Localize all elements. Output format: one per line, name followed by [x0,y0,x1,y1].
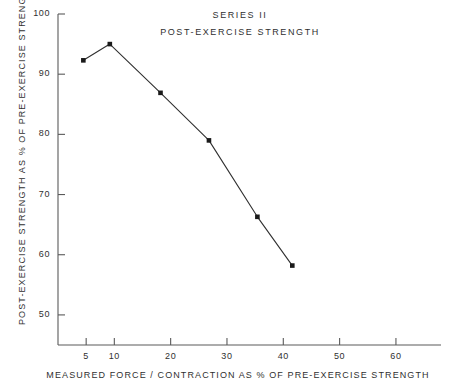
x-tick-label: 30 [215,351,239,361]
y-tick-label: 50 [24,309,50,319]
chart-plot-area [0,0,450,392]
data-point-marker [290,263,295,268]
y-tick-label: 60 [24,249,50,259]
x-axis-ticks [86,338,396,345]
chart-title-series: SERIES II [160,10,320,20]
data-point-marker [255,215,260,220]
data-point-marker [207,138,212,143]
x-tick-label: 10 [102,351,126,361]
y-tick-label: 90 [24,68,50,78]
figure-container: SERIES II POST-EXERCISE STRENGTH MEASURE… [0,0,450,392]
chart-title-subtitle: POST-EXERCISE STRENGTH [140,27,340,37]
x-tick-label: 60 [384,351,408,361]
series-markers [81,42,295,268]
x-tick-label: 40 [271,351,295,361]
data-point-marker [158,91,163,96]
x-tick-label: 5 [74,351,98,361]
axes-group [58,14,441,345]
y-tick-label: 80 [24,128,50,138]
data-point-marker [108,42,113,47]
data-point-marker [81,58,86,63]
x-axis-title: MEASURED FORCE / CONTRACTION AS % OF PRE… [36,370,440,380]
y-tick-label: 100 [24,8,50,18]
y-axis-ticks [58,14,65,315]
x-tick-label: 20 [159,351,183,361]
series-line [83,44,292,265]
x-tick-label: 50 [328,351,352,361]
y-tick-label: 70 [24,189,50,199]
